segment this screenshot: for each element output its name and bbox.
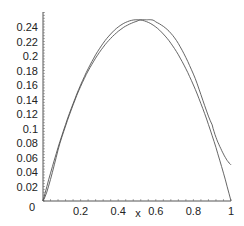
x-axis-label: x [135,207,141,219]
approximation-curve [43,20,231,201]
x-tick-label: 0.4 [111,205,126,217]
y-tick-label: 0.06 [17,152,38,164]
y-tick-label: 0.08 [17,137,38,149]
origin-label: 0 [29,201,35,213]
y-tick-label: 0.22 [17,36,38,48]
y-tick-label: 0.02 [17,181,38,193]
x-tick-label: 0.6 [148,205,163,217]
x-tick-label: 1 [228,205,234,217]
y-tick-label: 0.04 [17,166,38,178]
y-tick-label: 0.24 [17,21,38,33]
line-chart: 0.020.040.060.080.10.120.140.160.180.20.… [0,0,244,226]
y-tick-label: 0.12 [17,108,38,120]
y-tick-label: 0.14 [17,94,38,106]
y-axis-ticks: 0.020.040.060.080.10.120.140.160.180.20.… [17,13,45,202]
y-tick-label: 0.1 [23,123,38,135]
y-tick-label: 0.2 [23,50,38,62]
y-tick-label: 0.16 [17,79,38,91]
series-group [43,20,231,201]
x-tick-label: 0.2 [73,205,88,217]
x-tick-label: 0.8 [186,205,201,217]
y-tick-label: 0.18 [17,65,38,77]
